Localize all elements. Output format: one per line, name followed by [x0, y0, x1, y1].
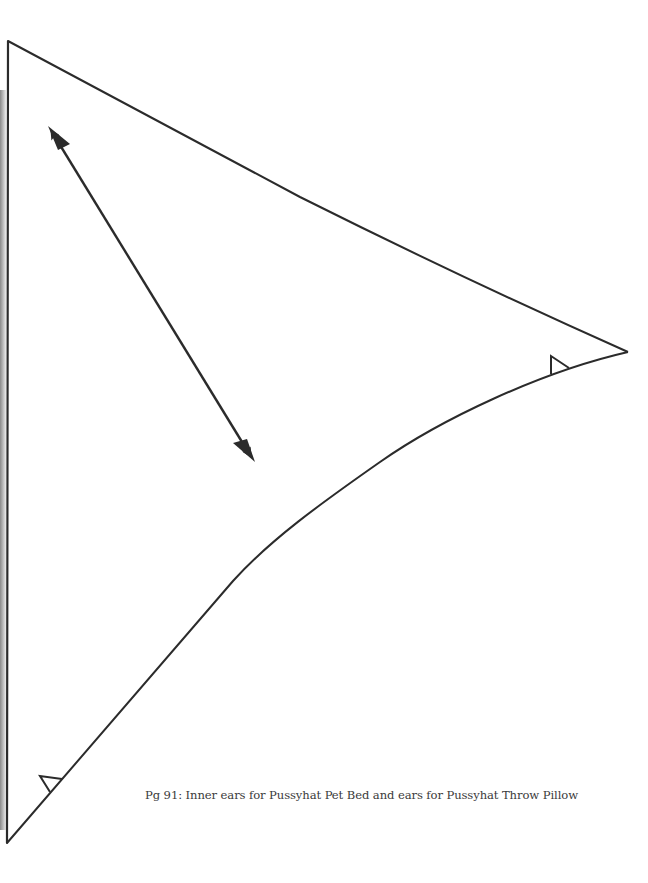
pattern-page: Pg 91: Inner ears for Pussyhat Pet Bed a… — [0, 0, 648, 883]
arrowhead-top-icon — [48, 126, 70, 150]
pattern-piece — [0, 0, 648, 883]
grainline-arrow — [52, 132, 250, 455]
pattern-edge-bottom-curve — [7, 352, 628, 843]
page-caption: Pg 91: Inner ears for Pussyhat Pet Bed a… — [145, 788, 565, 802]
arrowhead-bottom-icon — [233, 439, 255, 462]
pattern-edge-left — [7, 41, 8, 843]
pattern-edge-top — [8, 41, 628, 352]
